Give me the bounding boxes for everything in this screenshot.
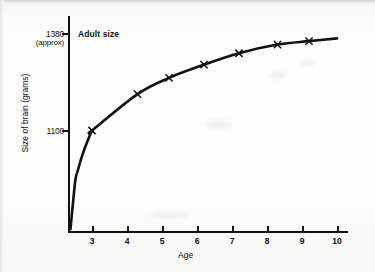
chart-page: 1380 (approx) 1100 3 4 5 6 7 8 9 10 Size…	[0, 0, 375, 272]
brain-growth-curve	[71, 38, 338, 229]
data-point-marker	[134, 91, 141, 98]
data-point-markers	[88, 38, 312, 135]
chart-plot-area	[0, 0, 375, 272]
